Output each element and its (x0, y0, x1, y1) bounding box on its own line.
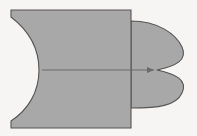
geometry-figure (0, 0, 197, 136)
diagram-canvas (0, 0, 197, 136)
